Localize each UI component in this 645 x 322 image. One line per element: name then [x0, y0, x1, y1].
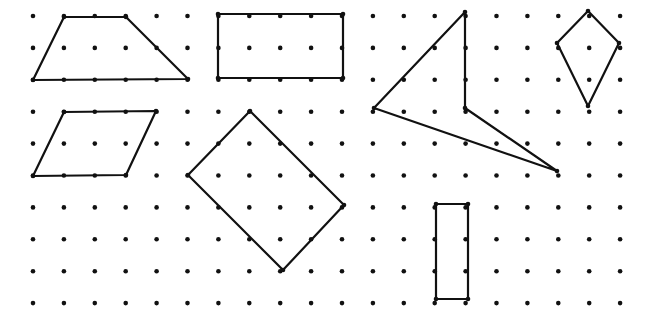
- grid-dot: [93, 301, 98, 306]
- vertex-dot: [124, 173, 129, 178]
- grid-dot: [31, 269, 36, 274]
- grid-dot: [185, 269, 190, 274]
- grid-dot: [556, 14, 561, 19]
- grid-dot: [525, 109, 530, 114]
- grid-dot: [123, 301, 128, 306]
- grid-dot: [185, 301, 190, 306]
- vertex-dot: [341, 76, 346, 81]
- grid-dots: [31, 14, 623, 306]
- grid-dot: [402, 46, 407, 51]
- grid-dot: [402, 109, 407, 114]
- grid-dot: [618, 141, 623, 146]
- grid-dot: [525, 173, 530, 178]
- grid-dot: [525, 301, 530, 306]
- grid-dot: [618, 237, 623, 242]
- grid-dot: [216, 301, 221, 306]
- grid-dot: [309, 269, 314, 274]
- grid-dot: [278, 173, 283, 178]
- grid-dot: [93, 269, 98, 274]
- grid-dot: [278, 109, 283, 114]
- vertex-dot: [466, 202, 471, 207]
- grid-dot: [556, 237, 561, 242]
- grid-dot: [93, 205, 98, 210]
- vertex-dot: [216, 12, 221, 17]
- vertex-dot: [586, 104, 591, 109]
- grid-dot: [402, 173, 407, 178]
- grid-dot: [185, 141, 190, 146]
- grid-dot: [123, 205, 128, 210]
- kite-shape: [557, 11, 619, 106]
- grid-dot: [62, 301, 67, 306]
- grid-dot: [371, 141, 376, 146]
- rectangle-tall-shape: [436, 204, 468, 299]
- grid-dot: [154, 173, 159, 178]
- grid-dot: [31, 205, 36, 210]
- grid-dot: [185, 109, 190, 114]
- grid-dot: [587, 109, 592, 114]
- vertex-dot: [434, 297, 439, 302]
- grid-dot: [618, 269, 623, 274]
- grid-dot: [525, 14, 530, 19]
- dot-grid-diagram: [0, 0, 645, 322]
- polygon-shapes: [31, 9, 622, 302]
- grid-dot: [154, 14, 159, 19]
- grid-dot: [494, 237, 499, 242]
- grid-dot: [556, 269, 561, 274]
- grid-dot: [494, 46, 499, 51]
- vertex-dot: [216, 76, 221, 81]
- grid-dot: [123, 237, 128, 242]
- grid-dot: [371, 46, 376, 51]
- vertex-dot: [62, 110, 67, 115]
- grid-dot: [556, 109, 561, 114]
- vertex-dot: [463, 10, 468, 15]
- grid-dot: [154, 237, 159, 242]
- grid-dot: [247, 173, 252, 178]
- grid-dot: [216, 237, 221, 242]
- grid-dot: [432, 173, 437, 178]
- grid-dot: [340, 237, 345, 242]
- grid-dot: [62, 46, 67, 51]
- grid-dot: [185, 14, 190, 19]
- grid-dot: [247, 301, 252, 306]
- grid-dot: [93, 237, 98, 242]
- vertex-dot: [617, 41, 622, 46]
- grid-dot: [402, 237, 407, 242]
- grid-dot: [494, 78, 499, 83]
- grid-dot: [556, 301, 561, 306]
- grid-dot: [463, 173, 468, 178]
- grid-dot: [340, 269, 345, 274]
- grid-dot: [31, 109, 36, 114]
- grid-dot: [371, 14, 376, 19]
- vertex-dot: [186, 77, 191, 82]
- grid-dot: [525, 141, 530, 146]
- grid-dot: [154, 141, 159, 146]
- concave-quadrilateral-shape: [374, 12, 557, 171]
- grid-dot: [185, 46, 190, 51]
- grid-dot: [494, 109, 499, 114]
- grid-dot: [340, 301, 345, 306]
- grid-dot: [123, 141, 128, 146]
- grid-dot: [618, 109, 623, 114]
- grid-dot: [31, 301, 36, 306]
- grid-dot: [371, 269, 376, 274]
- grid-dot: [463, 301, 468, 306]
- grid-dot: [62, 141, 67, 146]
- grid-dot: [247, 141, 252, 146]
- vertex-dot: [31, 174, 36, 179]
- grid-dot: [432, 141, 437, 146]
- grid-dot: [556, 141, 561, 146]
- grid-dot: [494, 173, 499, 178]
- grid-dot: [309, 109, 314, 114]
- grid-dot: [31, 237, 36, 242]
- vertex-dot: [463, 106, 468, 111]
- grid-dot: [402, 205, 407, 210]
- grid-dot: [216, 269, 221, 274]
- grid-dot: [432, 301, 437, 306]
- grid-dot: [185, 205, 190, 210]
- grid-dot: [216, 173, 221, 178]
- grid-dot: [587, 173, 592, 178]
- grid-dot: [31, 46, 36, 51]
- grid-dot: [31, 14, 36, 19]
- grid-dot: [587, 78, 592, 83]
- grid-dot: [556, 173, 561, 178]
